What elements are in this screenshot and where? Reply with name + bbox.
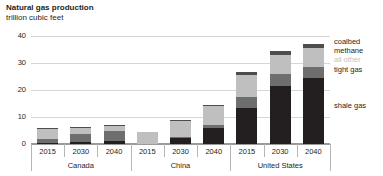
bar-segment-tight-gas bbox=[70, 134, 91, 141]
group-label-canada: Canada bbox=[31, 161, 131, 170]
bar-united-states-2030 bbox=[270, 51, 291, 144]
bar-segment-all-other bbox=[203, 106, 224, 125]
bar-united-states-2040 bbox=[303, 44, 324, 144]
bar-segment-shale-gas bbox=[303, 78, 324, 144]
chart-container: Natural gas production trillion cubic fe… bbox=[0, 0, 383, 176]
x-tick-3: 2015 bbox=[131, 147, 164, 156]
x-tick-5: 2040 bbox=[197, 147, 230, 156]
x-separator-0 bbox=[31, 144, 32, 171]
bar-segment-tight-gas bbox=[236, 97, 257, 109]
x-separator-3 bbox=[131, 144, 132, 171]
x-tick-7: 2030 bbox=[264, 147, 297, 156]
gridline-40 bbox=[31, 36, 330, 37]
bar-segment-shale-gas bbox=[236, 108, 257, 144]
y-tick-10: 10 bbox=[0, 113, 26, 121]
legend-item-shale-gas: shale gas bbox=[334, 102, 366, 111]
x-axis: 201520302040201520302040201520302040 Can… bbox=[31, 144, 330, 175]
bar-china-2030 bbox=[170, 120, 191, 144]
x-separator-9 bbox=[330, 144, 331, 171]
x-separator-5 bbox=[197, 144, 198, 157]
bar-segment-all-other bbox=[137, 132, 158, 144]
x-separator-1 bbox=[64, 144, 65, 157]
legend-item-tight-gas: tight gas bbox=[334, 66, 362, 75]
x-tick-8: 2040 bbox=[297, 147, 330, 156]
bar-china-2040 bbox=[203, 105, 224, 144]
y-tick-0: 0 bbox=[0, 140, 26, 148]
x-tick-4: 2030 bbox=[164, 147, 197, 156]
bar-segment-all-other bbox=[303, 48, 324, 67]
x-tick-6: 2015 bbox=[230, 147, 263, 156]
group-label-china: China bbox=[131, 161, 231, 170]
bar-segment-all-other bbox=[37, 129, 58, 139]
bar-segment-tight-gas bbox=[104, 131, 125, 141]
bar-united-states-2015 bbox=[236, 72, 257, 144]
bar-canada-2015 bbox=[37, 128, 58, 144]
bar-segment-all-other bbox=[270, 55, 291, 75]
x-separator-4 bbox=[164, 144, 165, 157]
x-separator-2 bbox=[97, 144, 98, 157]
plot-area bbox=[31, 36, 330, 144]
legend-item-all-other: all other bbox=[334, 56, 361, 65]
bar-segment-all-other bbox=[236, 75, 257, 97]
bar-segment-tight-gas bbox=[270, 74, 291, 86]
bar-canada-2040 bbox=[104, 125, 125, 144]
bar-segment-shale-gas bbox=[203, 128, 224, 144]
y-tick-40: 40 bbox=[0, 32, 26, 40]
bar-segment-all-other bbox=[170, 121, 191, 137]
x-tick-1: 2030 bbox=[64, 147, 97, 156]
x-tick-2: 2040 bbox=[98, 147, 131, 156]
x-axis-line bbox=[31, 144, 330, 145]
x-separator-7 bbox=[264, 144, 265, 157]
y-tick-30: 30 bbox=[0, 59, 26, 67]
x-separator-6 bbox=[230, 144, 231, 171]
x-separator-8 bbox=[297, 144, 298, 157]
bar-china-2015 bbox=[137, 132, 158, 144]
bar-segment-tight-gas bbox=[303, 67, 324, 78]
group-label-united-states: United States bbox=[230, 161, 330, 170]
x-tick-0: 2015 bbox=[31, 147, 64, 156]
bar-segment-shale-gas bbox=[270, 86, 291, 144]
bar-canada-2030 bbox=[70, 127, 91, 144]
y-tick-20: 20 bbox=[0, 86, 26, 94]
